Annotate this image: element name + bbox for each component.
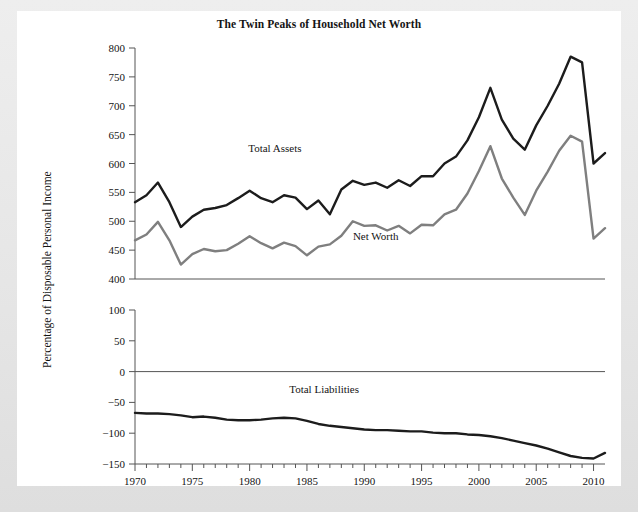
y-tick-label: −50 bbox=[108, 396, 126, 408]
series-label: Net Worth bbox=[353, 230, 399, 242]
series-label: Total Assets bbox=[248, 142, 301, 154]
series-annotations: Total AssetsNet WorthTotal Liabilities bbox=[248, 142, 399, 395]
series-line bbox=[135, 57, 605, 227]
y-tick-label: 800 bbox=[109, 42, 126, 54]
y-tick-label: 400 bbox=[109, 273, 126, 285]
plot-area: 400450500550600650700750800 −150−100−500… bbox=[17, 11, 621, 486]
x-tick-label: 2005 bbox=[525, 475, 548, 487]
y-tick-label: 700 bbox=[109, 100, 126, 112]
x-tick-label: 1995 bbox=[411, 475, 434, 487]
chart-card: The Twin Peaks of Household Net Worth Pe… bbox=[17, 11, 621, 486]
x-tick-label: 1985 bbox=[296, 475, 319, 487]
y-tick-label: −100 bbox=[102, 427, 125, 439]
upper-panel-axis: 400450500550600650700750800 bbox=[109, 42, 606, 285]
y-tick-label: −150 bbox=[102, 458, 125, 470]
x-tick-label: 1975 bbox=[181, 475, 204, 487]
chart-figure: The Twin Peaks of Household Net Worth Pe… bbox=[17, 11, 621, 486]
x-tick-label: 2010 bbox=[583, 475, 606, 487]
y-tick-label: 450 bbox=[109, 244, 126, 256]
y-tick-label: 650 bbox=[109, 129, 126, 141]
x-axis: 197019751980198519901995200020052010 bbox=[124, 464, 605, 487]
x-tick-label: 1990 bbox=[353, 475, 376, 487]
lower-panel-series bbox=[135, 413, 605, 459]
y-tick-label: 600 bbox=[109, 158, 126, 170]
y-tick-label: 50 bbox=[114, 335, 126, 347]
y-tick-label: 0 bbox=[120, 366, 126, 378]
y-tick-label: 550 bbox=[109, 186, 126, 198]
series-line bbox=[135, 136, 605, 265]
x-tick-label: 1980 bbox=[239, 475, 262, 487]
series-label: Total Liabilities bbox=[289, 383, 359, 395]
series-line bbox=[135, 413, 605, 459]
x-tick-label: 1970 bbox=[124, 475, 147, 487]
y-tick-label: 750 bbox=[109, 71, 126, 83]
y-tick-label: 100 bbox=[109, 304, 126, 316]
y-tick-label: 500 bbox=[109, 215, 126, 227]
x-tick-label: 2000 bbox=[468, 475, 491, 487]
